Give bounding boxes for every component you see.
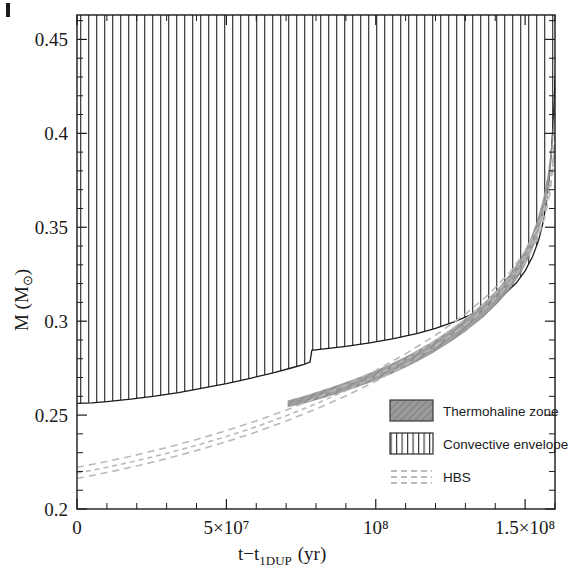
y-axis-title-sub: ⊙ [20, 275, 35, 286]
page-corner-mark [6, 3, 10, 17]
y-tick-label: 0.2 [44, 499, 68, 520]
legend-swatch-thermohaline [390, 400, 433, 421]
y-axis-title-close: ) [11, 269, 33, 275]
y-tick-label: 0.25 [35, 405, 68, 426]
x-tick-label: 0 [72, 517, 82, 538]
x-axis-title-unit: (yr) [298, 543, 326, 565]
x-axis-title-sub: 1DUP [259, 553, 292, 568]
chart-canvas: 05×10⁷10⁸1.5×10⁸ 0.20.250.30.350.40.45 t… [0, 0, 582, 585]
x-axis-title-main: t−t [238, 543, 260, 564]
x-tick-label: 1.5×10⁸ [495, 517, 555, 538]
legend-label-convective-envelope: Convective envelope [443, 437, 568, 452]
figure-root: 05×10⁷10⁸1.5×10⁸ 0.20.250.30.350.40.45 t… [0, 0, 582, 585]
x-tick-label: 5×10⁷ [203, 517, 249, 538]
legend-label-thermohaline-zone: Thermohaline zone [443, 404, 559, 419]
y-tick-label: 0.45 [35, 29, 68, 50]
y-tick-label: 0.3 [44, 311, 68, 332]
legend-label-hbs: HBS [443, 470, 471, 485]
y-axis-title-main: M (M [11, 286, 33, 331]
legend-swatch-convective [390, 433, 433, 454]
y-tick-label: 0.35 [35, 217, 68, 238]
x-tick-label: 10⁸ [363, 517, 389, 538]
y-tick-label: 0.4 [44, 123, 68, 144]
